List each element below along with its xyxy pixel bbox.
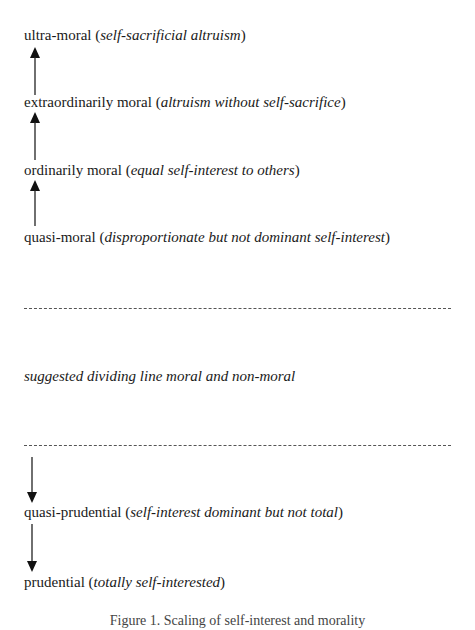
arrow-down-icon: [26, 524, 38, 572]
level-label: extraordinarily moral: [24, 94, 152, 110]
level-extraordinarily-moral: extraordinarily moral (altruism without …: [24, 93, 346, 111]
level-ordinarily-moral: ordinarily moral (equal self-interest to…: [24, 161, 300, 179]
arrow-down-icon: [26, 457, 38, 503]
level-label: quasi-moral: [24, 229, 96, 245]
divider-label: suggested dividing line moral and non-mo…: [24, 367, 295, 385]
level-description: equal self-interest to others: [131, 162, 295, 178]
level-label: ultra-moral: [24, 27, 91, 43]
level-label: quasi-prudential: [24, 504, 121, 520]
level-label: ordinarily moral: [24, 162, 122, 178]
level-description: self-sacrificial altruism: [100, 27, 240, 43]
level-description: altruism without self-sacrifice: [161, 94, 341, 110]
arrow-up-icon: [29, 180, 41, 226]
dashed-divider-top: [24, 308, 451, 309]
level-description: totally self-interested: [94, 574, 221, 590]
arrow-up-icon: [29, 112, 41, 160]
level-description: self-interest dominant but not total: [130, 504, 338, 520]
level-quasi-moral: quasi-moral (disproportionate but not do…: [24, 228, 390, 246]
level-description: disproportionate but not dominant self-i…: [104, 229, 385, 245]
level-ultra-moral: ultra-moral (self-sacrificial altruism): [24, 26, 246, 44]
arrow-up-icon: [29, 47, 41, 95]
figure-caption: Figure 1. Scaling of self-interest and m…: [0, 612, 475, 630]
dashed-divider-bottom: [24, 445, 451, 446]
level-quasi-prudential: quasi-prudential (self-interest dominant…: [24, 503, 343, 521]
level-prudential: prudential (totally self-interested): [24, 573, 225, 591]
level-label: prudential: [24, 574, 85, 590]
